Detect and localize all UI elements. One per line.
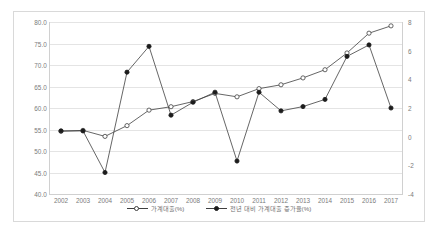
data-point: [323, 97, 327, 101]
y-axis-left-tick-label: 65.0: [15, 83, 47, 90]
x-axis-tick-label: 2015: [340, 197, 354, 204]
data-point: [279, 109, 283, 113]
legend-item-label: 전년 대비 가계대출 증가율(%): [230, 204, 311, 213]
x-axis-tick-label: 2016: [362, 197, 376, 204]
data-point: [147, 108, 151, 112]
y-axis-right-tick-label: 4: [408, 76, 434, 83]
data-point: [389, 24, 393, 28]
data-point: [389, 106, 393, 110]
data-point: [301, 104, 305, 108]
y-axis-right-tick-label: 6: [408, 47, 434, 54]
x-axis-tick-label: 2012: [274, 197, 288, 204]
y-axis-left-tick-label: 45.0: [15, 169, 47, 176]
x-axis-tick-label: 2003: [76, 197, 90, 204]
y-axis-right-tick-label: -4: [408, 191, 434, 198]
data-point: [367, 43, 371, 47]
data-point: [257, 90, 261, 94]
data-point: [345, 54, 349, 58]
data-point: [147, 44, 151, 48]
data-point: [367, 31, 371, 35]
data-point: [169, 105, 173, 109]
x-axis-tick-label: 2010: [230, 197, 244, 204]
open-circle-marker-icon: [127, 205, 148, 213]
x-axis-tick-label: 2017: [384, 197, 398, 204]
data-point: [125, 124, 129, 128]
y-axis-right-tick-label: 8: [408, 19, 434, 26]
x-axis-tick-label: 2006: [142, 197, 156, 204]
x-axis-tick-label: 2008: [186, 197, 200, 204]
y-axis-right-tick-label: 0: [408, 133, 434, 140]
y-axis-left-tick-label: 55.0: [15, 126, 47, 133]
legend-item[interactable]: 전년 대비 가계대출 증가율(%): [206, 204, 311, 213]
data-point: [235, 159, 239, 163]
data-point: [279, 83, 283, 87]
data-point: [103, 170, 107, 174]
x-axis-tick-label: 2004: [98, 197, 112, 204]
y-axis-left-tick-label: 75.0: [15, 40, 47, 47]
x-axis-tick-label: 2005: [120, 197, 134, 204]
y-axis-right-tick-label: -2: [408, 162, 434, 169]
filled-circle-marker-icon: [206, 205, 227, 213]
x-axis-tick-label: 2013: [296, 197, 310, 204]
data-point: [103, 134, 107, 138]
chart-frame: 40.045.050.055.060.065.070.075.080.0-4-2…: [13, 11, 425, 222]
series-layer: [50, 22, 402, 194]
legend-item[interactable]: 가계대출(%): [127, 204, 185, 213]
data-point: [191, 100, 195, 104]
chart-page: 40.045.050.055.060.065.070.075.080.0-4-2…: [0, 0, 439, 239]
x-axis-tick-label: 2002: [54, 197, 68, 204]
y-axis-left-tick-label: 40.0: [15, 191, 47, 198]
x-axis-tick-label: 2011: [252, 197, 266, 204]
series-line: [61, 26, 391, 137]
y-axis-left-tick-label: 50.0: [15, 148, 47, 155]
data-point: [235, 95, 239, 99]
data-point: [81, 129, 85, 133]
axis-line-bottom: [49, 194, 403, 195]
y-axis-left-tick-label: 70.0: [15, 62, 47, 69]
y-axis-left-tick-label: 60.0: [15, 105, 47, 112]
data-point: [59, 129, 63, 133]
data-point: [169, 113, 173, 117]
y-axis-right-tick-label: 2: [408, 105, 434, 112]
axis-line-right: [402, 22, 403, 194]
series-line: [61, 45, 391, 173]
data-point: [213, 90, 217, 94]
y-axis-left-tick-label: 80.0: [15, 19, 47, 26]
legend-item-label: 가계대출(%): [151, 204, 185, 213]
plot-area: 40.045.050.055.060.065.070.075.080.0-4-2…: [50, 22, 402, 194]
data-point: [323, 68, 327, 72]
x-axis-tick-label: 2009: [208, 197, 222, 204]
chart-legend: 가계대출(%)전년 대비 가계대출 증가율(%): [14, 204, 424, 213]
data-point: [125, 70, 129, 74]
data-point: [301, 76, 305, 80]
x-axis-tick-label: 2007: [164, 197, 178, 204]
x-axis-tick-label: 2014: [318, 197, 332, 204]
